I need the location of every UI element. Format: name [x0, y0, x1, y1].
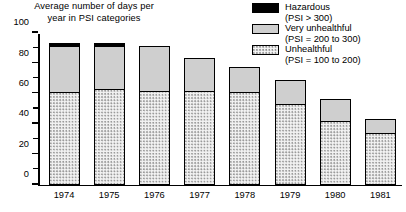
x-axis-label-1977: 1977 — [174, 190, 226, 200]
bar-1976[interactable] — [139, 46, 170, 184]
legend-swatch-hazardous-black — [252, 3, 279, 13]
y-tick-minor — [33, 138, 38, 139]
y-tick-minor — [33, 168, 38, 169]
bar-1975[interactable] — [94, 44, 125, 185]
legend-label: Hazardous — [285, 2, 404, 13]
y-tick-major — [32, 122, 39, 123]
y-tick-minor — [33, 107, 38, 108]
bar-segment-unhealthful — [320, 121, 351, 185]
legend-item[interactable]: Hazardous(PSI > 300) — [252, 2, 404, 23]
bar-1979[interactable] — [275, 80, 306, 185]
bar-1978[interactable] — [229, 67, 260, 184]
x-axis-label-1976: 1976 — [128, 190, 180, 200]
legend-item[interactable]: Very unhealthful(PSI = 200 to 300) — [252, 23, 404, 44]
legend-sublabel: (PSI = 200 to 300) — [285, 34, 404, 45]
legend-swatch-very-unhealthful-gray — [252, 24, 279, 34]
x-axis-label-1981: 1981 — [354, 190, 406, 200]
y-tick-major — [32, 31, 39, 32]
y-tick-minor — [33, 47, 38, 48]
x-axis-label-1978: 1978 — [219, 190, 271, 200]
y-axis-label: 100 — [0, 19, 29, 28]
y-tick-major — [32, 153, 39, 154]
x-axis-label-1980: 1980 — [309, 190, 361, 200]
bar-segment-very-unhealthful — [139, 46, 170, 91]
bar-segment-very-unhealthful — [275, 80, 306, 106]
bar-segment-very-unhealthful — [184, 58, 215, 91]
legend-item[interactable]: Unhealthful(PSI = 100 to 200) — [252, 44, 404, 65]
y-tick-major — [32, 92, 39, 93]
chart-root: Average number of days per year in PSI c… — [0, 0, 406, 212]
bar-segment-unhealthful — [184, 90, 215, 184]
bar-1981[interactable] — [365, 119, 396, 184]
legend-label: Very unhealthful — [285, 23, 404, 34]
x-axis-line — [38, 185, 402, 187]
x-axis-label-1979: 1979 — [264, 190, 316, 200]
legend-sublabel: (PSI = 100 to 200) — [285, 55, 404, 66]
y-axis-label: 0 — [0, 171, 29, 180]
chart-title: Average number of days per year in PSI c… — [4, 1, 184, 24]
legend-sublabel: (PSI > 300) — [285, 13, 404, 24]
bar-segment-unhealthful — [365, 133, 396, 185]
legend-swatch-unhealthful-dotted — [252, 45, 279, 55]
bar-segment-very-unhealthful — [320, 99, 351, 122]
x-axis-label-1974: 1974 — [38, 190, 90, 200]
bar-segment-unhealthful — [49, 92, 80, 185]
bar-segment-unhealthful — [275, 104, 306, 185]
y-tick-major — [32, 62, 39, 63]
x-axis-label-1975: 1975 — [83, 190, 135, 200]
bar-segment-unhealthful — [94, 89, 125, 185]
y-axis-label: 40 — [0, 110, 29, 119]
y-axis-label: 80 — [0, 49, 29, 58]
bar-1977[interactable] — [184, 58, 215, 184]
y-axis-line — [38, 34, 40, 186]
bar-segment-hazardous — [49, 43, 80, 47]
y-tick-minor — [33, 77, 38, 78]
y-axis-label: 20 — [0, 140, 29, 149]
bar-segment-very-unhealthful — [94, 46, 125, 90]
y-tick-major — [32, 183, 39, 184]
legend-label: Unhealthful — [285, 44, 404, 55]
bar-segment-very-unhealthful — [49, 46, 80, 93]
bar-segment-very-unhealthful — [229, 67, 260, 93]
bar-1974[interactable] — [49, 43, 80, 184]
chart-legend: Hazardous(PSI > 300)Very unhealthful(PSI… — [252, 2, 404, 66]
y-axis-label: 60 — [0, 79, 29, 88]
bar-segment-unhealthful — [229, 92, 260, 185]
bar-segment-unhealthful — [139, 90, 170, 184]
bar-1980[interactable] — [320, 99, 351, 184]
bar-segment-hazardous — [94, 43, 125, 46]
bar-segment-very-unhealthful — [365, 119, 396, 134]
